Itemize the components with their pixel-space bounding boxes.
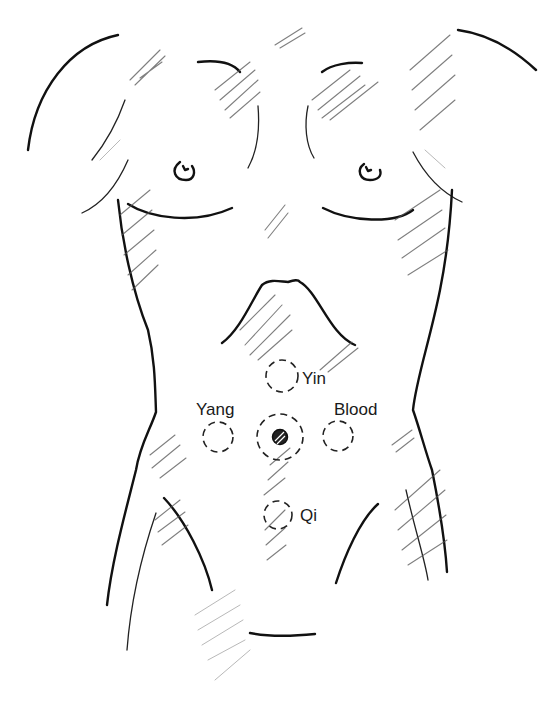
label-blood: Blood — [334, 401, 377, 418]
navel-inner-circle — [273, 430, 288, 445]
yin-point-circle — [266, 360, 298, 392]
left-thigh-line — [127, 513, 156, 650]
left-nipple — [175, 162, 194, 180]
label-yang: Yang — [196, 401, 234, 418]
right-breast-outer — [413, 152, 462, 202]
label-yin: Yin — [302, 370, 326, 387]
right-areola-dot — [366, 167, 371, 171]
left-breast-under — [82, 160, 128, 213]
left-shoulder-outline — [28, 35, 118, 150]
hatching — [120, 28, 455, 565]
left-breast-lower — [128, 204, 232, 218]
left-torso-outline — [107, 200, 156, 605]
yang-point-circle — [203, 422, 233, 452]
torso-illustration — [0, 0, 556, 701]
right-breast-upper — [322, 63, 362, 72]
torso-diagram: Yin Yang Blood Qi — [0, 0, 556, 701]
left-areola-dot — [183, 166, 188, 170]
label-qi: Qi — [300, 507, 317, 524]
left-hip-line — [164, 498, 212, 590]
rib-cage-arch — [222, 280, 355, 345]
right-breast-side — [306, 106, 314, 158]
right-breast-lower — [323, 208, 413, 220]
right-hip-line — [336, 504, 378, 583]
pubic-line — [250, 633, 315, 636]
blood-point-circle — [323, 421, 353, 451]
right-thigh-line — [406, 490, 428, 580]
right-nipple — [360, 164, 381, 180]
left-breast-upper — [198, 61, 240, 72]
left-breast-side — [248, 106, 259, 168]
qi-point-circle — [264, 501, 292, 529]
right-shoulder-outline — [458, 30, 536, 70]
